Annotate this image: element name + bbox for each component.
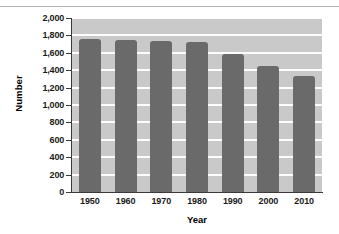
y-axis-tick-label: 1,800 xyxy=(24,31,64,40)
y-axis-tick xyxy=(66,105,71,106)
plot-area xyxy=(72,18,322,192)
y-axis-tick xyxy=(66,88,71,89)
bar xyxy=(293,76,315,192)
y-axis-tick xyxy=(66,70,71,71)
bar xyxy=(257,66,279,192)
y-axis-tick xyxy=(66,157,71,158)
y-axis-tick-label: 200 xyxy=(24,171,64,180)
y-axis-tick xyxy=(66,192,71,193)
y-axis-tick-label: 600 xyxy=(24,136,64,145)
gridline xyxy=(72,18,322,19)
y-axis-line xyxy=(71,18,72,193)
y-axis-tick-label: 1,200 xyxy=(24,84,64,93)
y-axis-tick xyxy=(66,175,71,176)
bar xyxy=(186,42,208,192)
y-axis-tick-label: 400 xyxy=(24,153,64,162)
y-axis-tick xyxy=(66,35,71,36)
bar xyxy=(115,40,137,192)
x-axis-tick-label: 1970 xyxy=(141,196,181,206)
y-axis-tick xyxy=(66,53,71,54)
x-axis-tick-label: 1980 xyxy=(177,196,217,206)
y-axis-tick xyxy=(66,122,71,123)
y-axis-tick-label: 2,000 xyxy=(24,14,64,23)
y-axis-tick-label: 1,000 xyxy=(24,101,64,110)
x-axis-tick-label: 2010 xyxy=(284,196,324,206)
x-axis-tick-label: 2000 xyxy=(248,196,288,206)
y-axis-labels: 02004006008001,0001,2001,4001,6001,8002,… xyxy=(18,0,64,234)
y-axis-tick-label: 1,600 xyxy=(24,49,64,58)
y-axis-tick-label: 0 xyxy=(24,188,64,197)
y-axis-tick-label: 1,400 xyxy=(24,66,64,75)
y-axis-tick-label: 800 xyxy=(24,118,64,127)
x-axis-title: Year xyxy=(72,214,322,225)
x-axis-tick-label: 1950 xyxy=(70,196,110,206)
bar xyxy=(79,39,101,192)
y-axis-tick xyxy=(66,140,71,141)
x-axis-tick-label: 1960 xyxy=(106,196,146,206)
x-axis-line xyxy=(71,192,323,193)
bar xyxy=(150,41,172,192)
x-axis-tick-label: 1990 xyxy=(213,196,253,206)
bar xyxy=(222,54,244,192)
chart-figure: Number 02004006008001,0001,2001,4001,600… xyxy=(0,0,339,234)
gridline xyxy=(72,34,322,36)
y-axis-tick xyxy=(66,18,71,19)
